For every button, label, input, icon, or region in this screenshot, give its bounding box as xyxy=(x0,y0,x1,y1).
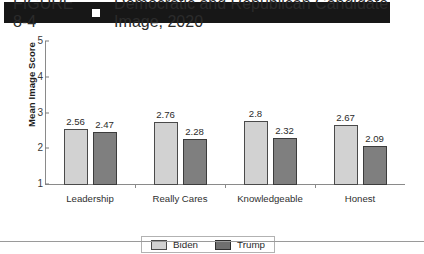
bar-pair: 2.672.09 xyxy=(315,41,405,185)
y-axis-label: Mean Image Score xyxy=(26,30,37,140)
plot-area: 12345 2.562.47Leadership2.762.28Really C… xyxy=(45,37,405,188)
y-tick-label: 5 xyxy=(29,36,43,46)
x-axis-separator-tick xyxy=(315,184,316,188)
bar-biden-really-cares: 2.76 xyxy=(154,122,178,185)
page-rule xyxy=(0,241,424,242)
bar-pair: 2.562.47 xyxy=(45,41,135,185)
bar-trump-honest: 2.09 xyxy=(363,146,387,185)
bar-pair: 2.762.28 xyxy=(135,41,225,185)
x-axis-separator-tick xyxy=(225,184,226,188)
bar-group: 2.562.47Leadership xyxy=(45,41,135,185)
x-axis-category-label: Really Cares xyxy=(153,193,208,204)
bar-value-label: 2.47 xyxy=(95,119,114,130)
bar-value-label: 2.56 xyxy=(66,116,85,127)
bar-pair: 2.82.32 xyxy=(225,41,315,185)
bar-group: 2.82.32Knowledgeable xyxy=(225,41,315,185)
bar-value-label: 2.28 xyxy=(185,126,204,137)
bar-biden-leadership: 2.56 xyxy=(64,129,88,185)
x-axis-category-label: Leadership xyxy=(66,193,113,204)
bar-group: 2.762.28Really Cares xyxy=(135,41,225,185)
y-tick-label: 2 xyxy=(29,143,43,153)
x-axis-separator-tick xyxy=(135,184,136,188)
bar-biden-knowledgeable: 2.8 xyxy=(244,121,268,185)
x-axis-category-label: Honest xyxy=(345,193,375,204)
chart-canvas: Mean Image Score 12345 2.562.47Leadershi… xyxy=(0,23,424,233)
bar-biden-honest: 2.67 xyxy=(334,125,358,185)
bar-value-label: 2.09 xyxy=(365,133,384,144)
bar-trump-leadership: 2.47 xyxy=(93,132,117,185)
bar-value-label: 2.67 xyxy=(336,112,355,123)
y-tick-label: 3 xyxy=(29,108,43,118)
x-axis-category-label: Knowledgeable xyxy=(237,193,303,204)
bar-trump-really-cares: 2.28 xyxy=(183,139,207,185)
bar-value-label: 2.32 xyxy=(275,125,294,136)
bar-value-label: 2.8 xyxy=(249,108,262,119)
bar-group: 2.672.09Honest xyxy=(315,41,405,185)
white-square-icon xyxy=(92,9,100,17)
y-tick-label: 1 xyxy=(29,179,43,189)
figure-header-bar: FIGURE 8-4 Democratic and Republican Can… xyxy=(4,2,390,23)
bar-value-label: 2.76 xyxy=(156,109,175,120)
chart-legend: Biden Trump xyxy=(141,236,275,253)
y-tick-label: 4 xyxy=(29,72,43,82)
bar-trump-knowledgeable: 2.32 xyxy=(273,138,297,185)
